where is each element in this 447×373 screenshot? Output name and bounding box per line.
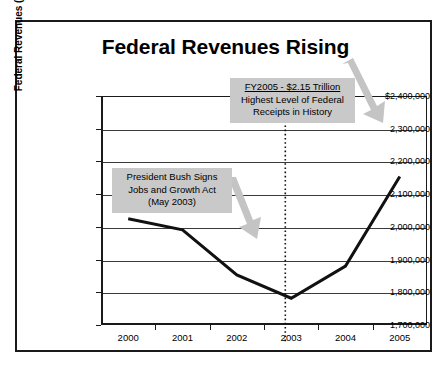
- fy2005-callout-line2: Highest Level of Federal: [236, 94, 349, 107]
- bush-callout-line3: (May 2003): [118, 196, 226, 209]
- fy2005-callout: FY2005 - $2.15 Trillion Highest Level of…: [230, 78, 355, 123]
- chart-frame: Federal Revenues Rising Federal Revenues…: [15, 20, 432, 352]
- fy2005-callout-line1: FY2005 - $2.15 Trillion: [236, 81, 349, 94]
- bush-callout-line1: President Bush Signs: [118, 171, 226, 184]
- bush-callout-line2: Jobs and Growth Act: [118, 184, 226, 197]
- chart-screenshot: Federal Revenues Rising Federal Revenues…: [0, 0, 447, 373]
- fy2005-callout-line3: Receipts in History: [236, 106, 349, 119]
- bush-callout: President Bush Signs Jobs and Growth Act…: [112, 168, 232, 213]
